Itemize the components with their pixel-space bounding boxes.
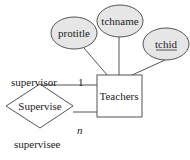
tchid-link — [130, 60, 165, 76]
cardinality-n: n — [77, 124, 83, 136]
attribute-tchid-label: tchid — [155, 38, 177, 50]
protitle-link — [84, 48, 108, 76]
entity-teachers-label: Teachers — [100, 90, 139, 102]
attribute-tchname-label: tchname — [101, 15, 138, 27]
role-supervisor-label: supervisor — [11, 76, 57, 88]
role-supervisee-label: supervisee — [14, 138, 60, 150]
attribute-protitle-label: protitle — [58, 27, 90, 39]
relationship-supervise-label: Supervise — [18, 100, 61, 112]
cardinality-one: 1 — [78, 76, 84, 88]
